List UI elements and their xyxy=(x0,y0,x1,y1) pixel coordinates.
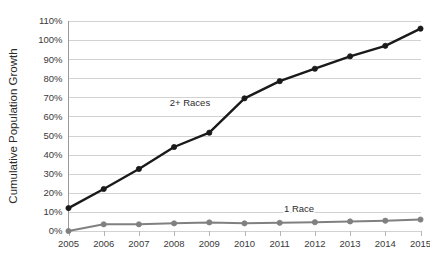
data-point xyxy=(207,220,212,225)
x-tick-label: 2015 xyxy=(410,238,430,249)
x-tick-label: 2014 xyxy=(375,238,396,249)
data-point xyxy=(348,219,353,224)
chart-canvas: 0%10%20%30%40%50%60%70%80%90%100%110% 20… xyxy=(0,0,430,265)
y-tick-label: 0% xyxy=(49,225,63,236)
y-tick-label: 20% xyxy=(43,187,63,198)
data-point xyxy=(136,222,141,227)
y-tick-label: 80% xyxy=(43,73,63,84)
data-point xyxy=(101,186,106,191)
y-tick-label: 40% xyxy=(43,149,63,160)
y-tick-label: 100% xyxy=(38,34,63,45)
data-point xyxy=(207,130,212,135)
x-tick-label: 2006 xyxy=(93,238,114,249)
data-point xyxy=(348,54,353,59)
data-point xyxy=(383,43,388,48)
data-point xyxy=(66,205,71,210)
y-tick-label: 30% xyxy=(43,168,63,179)
x-axis-tick-labels: 2005200620072008200920102011201220132014… xyxy=(58,238,430,249)
series-label-1-race: 1 Race xyxy=(284,203,314,214)
y-tick-label: 10% xyxy=(43,206,63,217)
data-point xyxy=(383,218,388,223)
x-tick-label: 2009 xyxy=(199,238,220,249)
y-tick-label: 60% xyxy=(43,111,63,122)
data-point xyxy=(101,222,106,227)
line-chart: 0%10%20%30%40%50%60%70%80%90%100%110% 20… xyxy=(0,0,430,265)
y-tick-label: 90% xyxy=(43,54,63,65)
x-tick-label: 2010 xyxy=(234,238,255,249)
data-point xyxy=(277,79,282,84)
x-tick-label: 2012 xyxy=(304,238,325,249)
data-point xyxy=(136,166,141,171)
x-tick-label: 2011 xyxy=(269,238,289,249)
y-axis-title: Cumulative Population Growth xyxy=(7,48,19,203)
y-tick-label: 50% xyxy=(43,130,63,141)
y-tick-label: 110% xyxy=(39,15,63,26)
x-tick-label: 2008 xyxy=(164,238,185,249)
data-point xyxy=(172,144,177,149)
data-point xyxy=(418,217,423,222)
x-tick-label: 2013 xyxy=(340,238,361,249)
data-point xyxy=(172,221,177,226)
data-point xyxy=(418,26,423,31)
data-point xyxy=(312,66,317,71)
y-tick-label: 70% xyxy=(43,92,63,103)
x-tick-label: 2007 xyxy=(128,238,149,249)
data-point xyxy=(312,220,317,225)
x-tick-label: 2005 xyxy=(58,238,79,249)
chart-background xyxy=(0,0,430,265)
data-point xyxy=(242,221,247,226)
data-point xyxy=(242,96,247,101)
data-point xyxy=(66,228,71,233)
series-label-2-races: 2+ Races xyxy=(170,97,211,108)
data-point xyxy=(277,220,282,225)
